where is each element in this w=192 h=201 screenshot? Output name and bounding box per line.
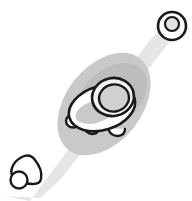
illustration-stage: Grayscale line-art illustration of a rou…: [0, 0, 192, 201]
illustration-artboard: [0, 0, 192, 201]
ringed-marker-inner-circle: [165, 17, 179, 31]
cone-ball-shape: [11, 172, 28, 189]
cone-with-ball-group: [11, 156, 42, 189]
ringed-marker-group[interactable]: [158, 12, 186, 40]
